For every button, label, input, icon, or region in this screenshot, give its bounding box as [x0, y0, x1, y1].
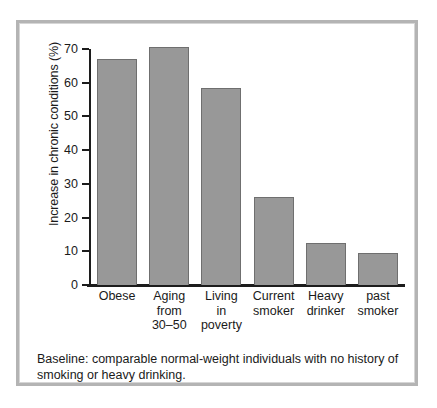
x-axis-category-labels: ObeseAging from 30–50Living in povertyCu… [91, 289, 404, 333]
x-axis-category-label: Aging from 30–50 [143, 289, 195, 333]
y-axis-tick [82, 284, 89, 286]
bar-chart: Increase in chronic conditions (%) 01020… [19, 23, 415, 319]
y-axis-tick [82, 183, 89, 185]
y-axis-tick-label: 30 [64, 177, 78, 191]
y-axis-tick-label: 20 [64, 211, 78, 225]
x-axis-category-label: Heavy drinker [300, 289, 352, 318]
y-axis-tick-label: 60 [64, 76, 78, 90]
figure-caption: Baseline: comparable normal-weight indiv… [37, 351, 401, 383]
y-axis-tick-label: 0 [71, 278, 78, 292]
x-axis-category-label: past smoker [352, 289, 404, 318]
y-axis-tick [82, 48, 89, 50]
y-axis-tick [82, 250, 89, 252]
bar [358, 253, 398, 285]
bar [149, 47, 189, 285]
x-axis-category-label: Current smoker [248, 289, 300, 318]
y-axis-tick-label: 50 [64, 109, 78, 123]
y-axis-tick [82, 149, 89, 151]
y-axis-tick [82, 115, 89, 117]
y-axis-title: Increase in chronic conditions (%) [47, 14, 61, 254]
bar [254, 197, 294, 285]
y-axis-tick [82, 82, 89, 84]
bar [306, 243, 346, 285]
y-axis-tick-label: 70 [64, 42, 78, 56]
y-axis-tick-label: 10 [64, 244, 78, 258]
bar [97, 59, 137, 285]
x-axis-category-label: Living in poverty [195, 289, 247, 333]
x-axis-category-label: Obese [91, 289, 143, 304]
y-axis-tick [82, 217, 89, 219]
bar [201, 88, 241, 285]
figure-frame: Increase in chronic conditions (%) 01020… [16, 20, 418, 386]
plot-area: 010203040506070 [89, 49, 404, 285]
bar-series [91, 49, 404, 285]
y-axis-tick-label: 40 [64, 143, 78, 157]
